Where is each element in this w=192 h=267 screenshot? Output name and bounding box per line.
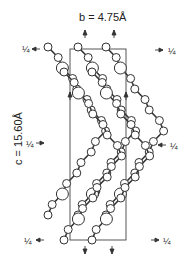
atom (149, 138, 157, 146)
atom (88, 68, 96, 76)
atom (103, 131, 111, 139)
atom (72, 87, 84, 99)
atom (113, 100, 121, 108)
atom (88, 236, 96, 244)
atom (56, 188, 68, 200)
atom (118, 152, 126, 160)
atom (113, 142, 121, 150)
atom (112, 54, 120, 62)
atom (135, 163, 143, 171)
atom (127, 75, 135, 83)
atom (99, 121, 107, 129)
atom (79, 205, 87, 213)
atom (87, 148, 95, 156)
atom (44, 211, 52, 219)
atom (89, 194, 97, 202)
atom (60, 68, 68, 76)
crystal-structure-diagram (0, 0, 192, 267)
atom (117, 194, 125, 202)
atom (117, 110, 125, 118)
atom (103, 173, 111, 181)
atom (155, 117, 163, 125)
atom (89, 110, 97, 118)
atom (98, 79, 106, 87)
atom (91, 138, 99, 146)
atom (64, 226, 72, 234)
atom (127, 121, 135, 129)
atom (160, 127, 168, 135)
atom (73, 169, 81, 177)
atom (72, 213, 84, 225)
atom (74, 43, 82, 51)
atom (77, 159, 85, 167)
atom (107, 163, 115, 171)
atom (121, 138, 129, 146)
atom (93, 184, 101, 192)
atom (141, 96, 149, 104)
atom (146, 152, 154, 160)
atom (84, 54, 92, 62)
atom (107, 205, 115, 213)
atom (70, 79, 78, 87)
atom (114, 62, 126, 74)
atom (85, 100, 93, 108)
atom (100, 213, 112, 225)
atom (100, 87, 112, 99)
atom (63, 180, 71, 188)
atom (48, 201, 56, 209)
atom (121, 184, 129, 192)
atom (92, 226, 100, 234)
atom (102, 43, 110, 51)
atom (141, 142, 149, 150)
atom (131, 131, 139, 139)
molecular-chains (44, 43, 168, 244)
atom (131, 85, 139, 93)
atom (145, 106, 153, 114)
atom (60, 236, 68, 244)
atom (54, 54, 62, 62)
atom (44, 43, 52, 51)
atom (131, 173, 139, 181)
